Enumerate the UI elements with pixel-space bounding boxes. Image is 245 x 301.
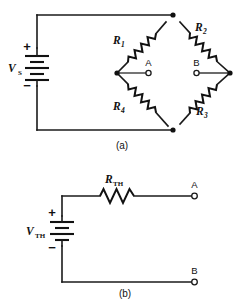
terminal-b-label: B bbox=[193, 57, 199, 68]
r4-label-sub: 4 bbox=[120, 106, 125, 115]
resistor-r4: R 4 bbox=[112, 73, 168, 126]
node-dot-right bbox=[227, 70, 232, 75]
r2-lead-b bbox=[217, 62, 230, 74]
resistor-r1: R 1 bbox=[112, 22, 166, 73]
r4-zigzag bbox=[128, 84, 156, 113]
caption-b: (b) bbox=[119, 288, 131, 299]
resistor-rth: R TH bbox=[100, 173, 192, 203]
node-dot-bottom bbox=[170, 127, 175, 132]
r3-lead-b bbox=[217, 73, 230, 85]
terminal-a-label: A bbox=[145, 57, 152, 68]
vth-label-main: V bbox=[26, 225, 35, 237]
r1-zigzag bbox=[128, 34, 156, 63]
r4-lead-b bbox=[156, 113, 168, 127]
r1-lead-b bbox=[156, 22, 166, 34]
circuit-figure: + − V S R 1 R 2 bbox=[0, 0, 245, 301]
rth-label-main: R bbox=[104, 173, 113, 185]
circuit-a-group: + − V S R 1 R 2 bbox=[8, 12, 233, 151]
circuit-b-group: R TH + − V TH A B (b) bbox=[26, 173, 198, 299]
r2-lead-a bbox=[180, 22, 190, 33]
r1-label-main: R bbox=[112, 34, 121, 46]
vth-minus-sign: − bbox=[48, 240, 56, 255]
vth-label-sub: TH bbox=[35, 232, 46, 240]
circuit-diagram-svg: + − V S R 1 R 2 bbox=[0, 0, 245, 301]
vth-plus-sign: + bbox=[48, 205, 56, 220]
rth-label-sub: TH bbox=[113, 180, 124, 188]
terminal-b-a-circle[interactable] bbox=[192, 193, 198, 199]
vs-label-main: V bbox=[8, 62, 17, 74]
node-dot-left bbox=[114, 70, 119, 75]
r2-label-sub: 2 bbox=[202, 27, 207, 36]
terminal-b-a-label: A bbox=[191, 179, 198, 190]
rth-zigzag bbox=[100, 189, 134, 203]
vs-label-sub: S bbox=[18, 69, 22, 77]
r4-label-main: R bbox=[112, 100, 121, 112]
caption-a: (a) bbox=[116, 140, 128, 151]
resistor-r2: R 2 bbox=[180, 21, 230, 73]
r1-label-sub: 1 bbox=[121, 40, 125, 49]
terminal-b-b-label: B bbox=[191, 265, 197, 276]
terminal-b-b-circle[interactable] bbox=[192, 279, 198, 285]
r3-lead-a bbox=[180, 113, 190, 124]
terminal-a-circle[interactable] bbox=[146, 70, 151, 75]
r3-label-main: R bbox=[195, 105, 204, 117]
node-dot-top bbox=[170, 12, 175, 17]
r3-label-sub: 3 bbox=[203, 111, 208, 120]
resistor-r3: R 3 bbox=[180, 73, 230, 124]
terminal-b-circle[interactable] bbox=[194, 70, 199, 75]
r2-label-main: R bbox=[194, 21, 203, 33]
vs-minus-sign: − bbox=[23, 78, 31, 93]
vs-plus-sign: + bbox=[23, 39, 31, 54]
